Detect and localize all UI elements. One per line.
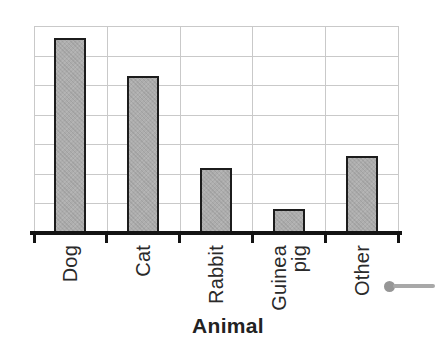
- x-label-cat: Cat: [133, 245, 153, 277]
- x-label-guinea-pig: Guinea pig: [269, 245, 309, 311]
- x-axis-tick: [397, 231, 400, 243]
- x-axis-tick: [324, 231, 327, 243]
- x-axis-tick: [33, 231, 36, 243]
- x-axis-title: Animal: [192, 314, 264, 338]
- x-axis-tick: [105, 231, 108, 243]
- x-label-dog: Dog: [60, 245, 80, 282]
- x-label-rabbit: Rabbit: [206, 245, 226, 304]
- bar-dog: [54, 38, 86, 233]
- bar-chart: Animal DogCatRabbitGuinea pigOther: [0, 0, 435, 349]
- x-axis-tick: [251, 231, 254, 243]
- x-axis-line: [30, 231, 402, 235]
- callout-leader-line: [393, 284, 435, 288]
- bar-rabbit: [200, 168, 232, 233]
- bar-other: [346, 156, 378, 233]
- plot-area: [34, 26, 399, 233]
- x-axis-tick: [178, 231, 181, 243]
- x-label-other: Other: [352, 245, 372, 296]
- bar-guinea-pig: [273, 209, 305, 233]
- bar-cat: [127, 76, 159, 233]
